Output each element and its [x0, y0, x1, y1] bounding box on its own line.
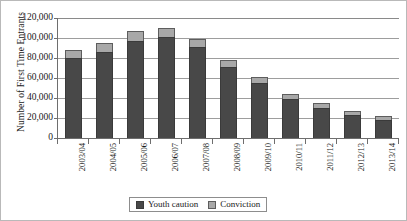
bar-stack[interactable] [344, 111, 361, 138]
bar-segment-youth-caution[interactable] [375, 120, 392, 139]
bar-segment-conviction[interactable] [65, 50, 82, 58]
bar-segment-youth-caution[interactable] [282, 99, 299, 139]
bar-stack[interactable] [158, 28, 175, 139]
bar-segment-conviction[interactable] [96, 43, 113, 53]
bar-column[interactable] [306, 18, 337, 138]
x-tick-label: 2004/05 [108, 143, 118, 189]
bar-segment-youth-caution[interactable] [251, 83, 268, 138]
bar-column[interactable] [58, 18, 89, 138]
conviction-swatch [208, 201, 216, 209]
bar-column[interactable] [368, 18, 399, 138]
legend-item-label: Youth caution [148, 200, 198, 209]
bar-stack[interactable] [220, 60, 237, 139]
x-tick-mark [243, 139, 244, 144]
bar-column[interactable] [275, 18, 306, 138]
x-tick-mark [88, 139, 89, 144]
y-tick-label: 100,000 [3, 33, 53, 43]
bar-stack[interactable] [313, 103, 330, 139]
caution-swatch [136, 201, 144, 209]
x-tick-mark [119, 139, 120, 144]
bar-segment-youth-caution[interactable] [344, 115, 361, 138]
bar-column[interactable] [120, 18, 151, 138]
x-tick-mark [336, 139, 337, 144]
y-tick-label: 20,000 [3, 113, 53, 123]
bar-stack[interactable] [251, 77, 268, 139]
x-tick-label: 2007/08 [201, 143, 211, 189]
x-tick-mark [274, 139, 275, 144]
bar-stack[interactable] [96, 43, 113, 139]
x-tick-mark [181, 139, 182, 144]
chart-figure: Number of First Time Entrants 120,000100… [0, 0, 407, 221]
x-tick-label: 2012/13 [356, 143, 366, 189]
x-tick-label: 2010/11 [294, 143, 304, 189]
legend-item[interactable]: Conviction [208, 200, 260, 209]
bar-stack[interactable] [375, 116, 392, 138]
bar-column[interactable] [182, 18, 213, 138]
y-tick-label: 40,000 [3, 93, 53, 103]
y-tick-label: 80,000 [3, 53, 53, 63]
bar-column[interactable] [213, 18, 244, 138]
bar-segment-youth-caution[interactable] [158, 37, 175, 138]
x-tick-label: 2008/09 [232, 143, 242, 189]
y-tick-label: 60,000 [3, 73, 53, 83]
bar-stack[interactable] [189, 39, 206, 139]
x-axis-labels: 2003/042004/052005/062006/072007/082008/… [57, 145, 398, 191]
bar-column[interactable] [151, 18, 182, 138]
x-tick-mark [367, 139, 368, 144]
x-tick-label: 2005/06 [139, 143, 149, 189]
bar-segment-youth-caution[interactable] [313, 108, 330, 139]
bar-column[interactable] [337, 18, 368, 138]
legend-item-label: Conviction [220, 200, 260, 209]
chart-legend: Youth cautionConviction [129, 197, 267, 212]
x-tick-label: 2009/10 [263, 143, 273, 189]
x-tick-label: 2003/04 [77, 143, 87, 189]
bar-segment-conviction[interactable] [127, 31, 144, 41]
bar-segment-youth-caution[interactable] [189, 47, 206, 138]
y-tick-label: 0 [3, 133, 53, 143]
x-tick-mark [57, 139, 58, 144]
bar-segment-youth-caution[interactable] [220, 67, 237, 138]
bar-segment-conviction[interactable] [189, 39, 206, 48]
x-tick-label: 2011/12 [325, 143, 335, 189]
bar-stack[interactable] [127, 31, 144, 138]
bar-segment-youth-caution[interactable] [96, 52, 113, 138]
bar-column[interactable] [244, 18, 275, 138]
bar-column[interactable] [89, 18, 120, 138]
bar-stack[interactable] [65, 50, 82, 138]
bar-segment-conviction[interactable] [158, 28, 175, 38]
x-tick-label: 2006/07 [170, 143, 180, 189]
x-tick-mark [305, 139, 306, 144]
y-tick-label: 120,000 [3, 13, 53, 23]
x-tick-mark [212, 139, 213, 144]
bar-segment-youth-caution[interactable] [65, 58, 82, 138]
x-tick-mark [150, 139, 151, 144]
x-tick-label: 2013/14 [387, 143, 397, 189]
plot-area: 120,000100,00080,00060,00040,00020,0000 [57, 18, 399, 139]
bar-segment-youth-caution[interactable] [127, 41, 144, 139]
bar-stack[interactable] [282, 94, 299, 139]
bar-group [58, 18, 399, 138]
legend-item[interactable]: Youth caution [136, 200, 198, 209]
bar-segment-conviction[interactable] [220, 60, 237, 68]
x-tick-mark [398, 139, 399, 144]
